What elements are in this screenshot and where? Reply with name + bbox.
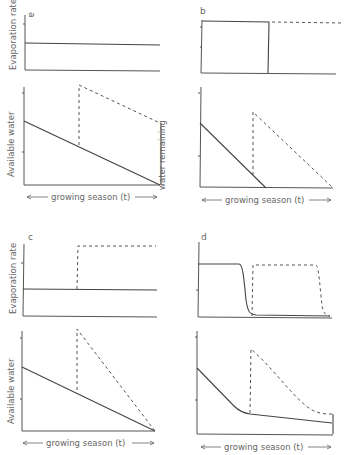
y-axis [23,244,24,316]
evaporation-line-solid [23,289,157,290]
x-axis [200,187,333,188]
y-axis-label: Available water [6,358,16,424]
water-depletion-dashed [253,112,332,187]
evaporation-line-solid [25,43,160,45]
panel-a-water-plot: water remaining Available water growing … [6,85,167,202]
water-depletion-dashed [79,85,160,145]
panel-c: c Evaporation rate Available water growi… [6,232,157,448]
water-depletion-solid [24,121,160,185]
evaporation-line-solid [202,21,269,73]
x-axis [201,73,336,74]
water-depletion-dashed [77,329,155,431]
water-depletion-dashed [250,349,332,414]
x-axis [197,434,333,435]
y-axis [200,87,201,187]
panel-b-water-plot: growing season (t) [198,87,333,205]
panel-b-evaporation-plot [200,20,343,74]
panel-a-evaporation-plot: Evaporation rate [8,0,160,71]
water-depletion-solid [197,368,332,423]
evaporation-line-solid [198,264,330,316]
x-axis [23,316,157,317]
panel-letter-b: b [200,6,206,16]
evaporation-line-dashed [272,22,343,23]
panel-d-water-plot: growing season (t) [195,331,333,452]
water-remaining-label: water remaining [157,120,167,190]
x-axis [25,70,160,71]
panel-d-evaporation-plot [196,242,332,318]
y-axis-label: Evaporation rate [8,0,18,70]
y-axis-label: Available water [6,111,16,177]
water-depletion-solid [200,123,266,188]
x-axis-label: growing season (t) [51,192,130,202]
panel-b: b growing season (t) [198,6,343,205]
panel-letter-d: d [201,232,207,242]
y-axis-label: Evaporation rate [8,243,18,314]
x-axis [198,317,332,318]
panel-a: a Evaporation rate water remaining Avail… [6,0,167,202]
figure-canvas: a Evaporation rate water remaining Avail… [0,0,346,455]
water-depletion-solid [22,367,155,431]
panel-c-evaporation-plot: Evaporation rate [8,243,157,317]
evaporation-line-dashed [77,246,156,289]
x-axis-label: growing season (t) [224,442,303,452]
panel-c-water-plot: Available water growing season (t) [6,329,155,448]
panel-letter-a: a [27,12,37,18]
evaporation-line-dashed [252,265,330,316]
y-axis [198,242,199,317]
panel-d: d growing season (t) [195,232,333,452]
panel-letter-c: c [28,232,33,242]
x-axis-label: growing season (t) [46,438,125,448]
x-axis-label: growing season (t) [225,195,304,205]
